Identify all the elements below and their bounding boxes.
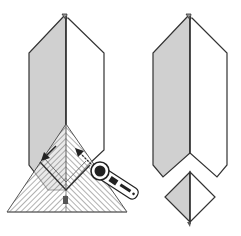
diagram-svg <box>0 0 241 236</box>
notched-strip-shaded-half <box>153 16 190 177</box>
cut-off-square <box>165 172 215 227</box>
triangle-ruler <box>0 120 132 215</box>
cut-off-square-shaded-half <box>165 172 190 222</box>
quilting-diagram <box>0 0 241 236</box>
cut-off-square-white-half <box>190 172 215 222</box>
notched-strip-white-half <box>190 18 227 177</box>
after-cut-figure <box>153 14 227 227</box>
before-cut-figure <box>0 14 140 215</box>
